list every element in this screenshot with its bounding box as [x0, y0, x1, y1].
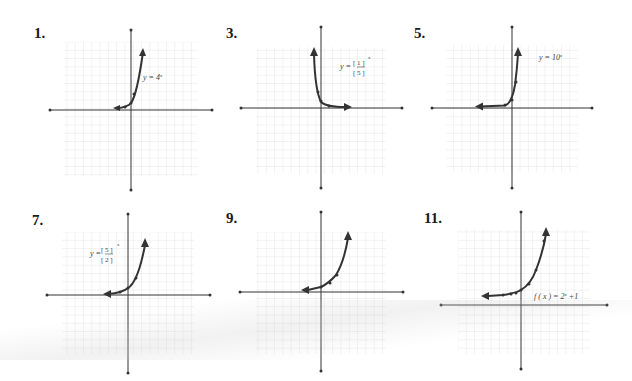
graph-7: y = [ 5 ] [ 2 ] x	[0, 190, 216, 381]
graph-panel-5: 5. y = 10x	[420, 0, 632, 190]
graph-panel-1: 1. y = 4x	[0, 0, 216, 190]
svg-text:[ 1 ]: [ 1 ]	[353, 59, 365, 67]
svg-text:y = 10x: y = 10x	[538, 53, 563, 62]
svg-text:f ( x ) = 2x +1: f ( x ) = 2x +1	[534, 292, 578, 301]
svg-text:y =: y =	[89, 249, 101, 258]
graph-panel-9: 9.	[216, 190, 416, 381]
graph-5: y = 10x	[420, 0, 632, 190]
graph-1: y = 4x	[0, 0, 216, 190]
graph-9	[216, 190, 416, 381]
svg-text:y =: y =	[339, 62, 351, 71]
svg-text:[ 2 ]: [ 2 ]	[101, 256, 113, 264]
graph-3: y = [ 1 ] [ 5 ] x	[216, 0, 420, 190]
graph-panel-3: 3. y = [ 1 ] [ 5 ] x	[216, 0, 420, 190]
equation-label: y = 4x	[142, 73, 163, 82]
graph-panel-7: 7. y = [ 5 ] [ 2 ] x	[0, 190, 216, 381]
graph-panel-11: 11. f ( x ) = 2x +1	[416, 190, 632, 381]
graph-11: f ( x ) = 2x +1	[416, 190, 632, 381]
svg-text:[ 5 ]: [ 5 ]	[101, 246, 113, 254]
svg-text:[ 5 ]: [ 5 ]	[353, 69, 365, 77]
